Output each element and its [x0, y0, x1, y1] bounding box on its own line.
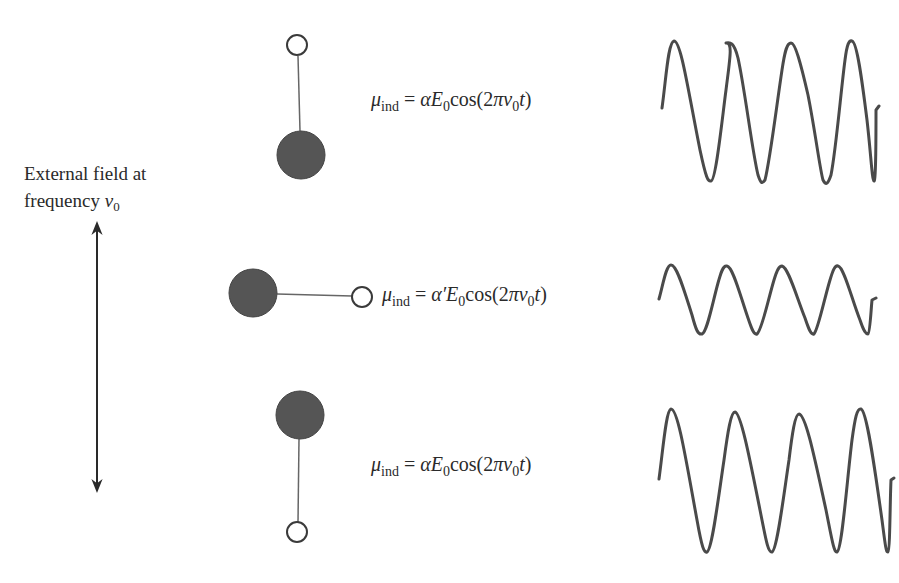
external-field-label-line2: frequency ν0 [24, 187, 146, 214]
open-atom [287, 35, 307, 55]
bond-line [298, 439, 299, 522]
polarizability-diagram: External field at frequency ν0 μind = αE… [0, 0, 899, 583]
filled-atom [229, 269, 277, 317]
open-atom [287, 522, 307, 542]
induced-dipole-equation-3: μind = αE0cos(2πν0t) [371, 452, 531, 476]
bond-line [277, 294, 352, 296]
external-field-label: External field at frequency ν0 [24, 160, 146, 214]
open-atom [352, 287, 372, 307]
frequency-symbol: ν [105, 190, 113, 211]
induced-dipole-equation-2: μind = α′E0cos(2πν0t) [382, 282, 547, 306]
dipole-oscillation-wave-1 [662, 41, 879, 184]
filled-atom [276, 391, 324, 439]
bond-line [298, 56, 300, 131]
molecule-1 [277, 35, 325, 179]
filled-atom [277, 131, 325, 179]
molecule-2 [229, 269, 372, 317]
induced-dipole-equation-1: μind = αE0cos(2πν0t) [371, 87, 531, 111]
molecule-3 [276, 391, 324, 542]
dipole-oscillation-wave-2 [659, 265, 876, 334]
external-field-label-line1: External field at [24, 160, 146, 187]
dipole-oscillation-wave-3 [659, 409, 894, 552]
